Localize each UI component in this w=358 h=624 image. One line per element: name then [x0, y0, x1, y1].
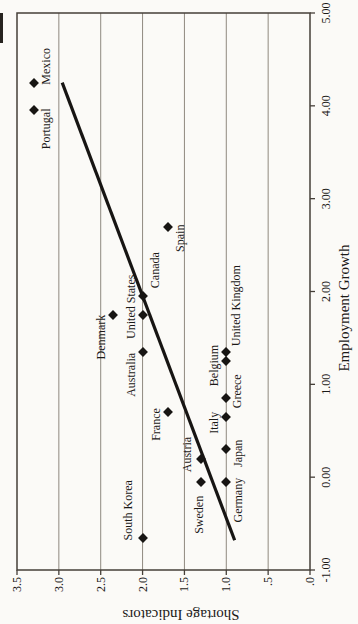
x-tick-label-2-00: 2.00: [319, 281, 334, 302]
x-axis-title: Employment Growth: [336, 244, 353, 371]
y-tick-label-2-5: 2.5: [93, 577, 108, 592]
data-label-portugal: Portugal: [39, 108, 52, 149]
data-label-japan: Japan: [232, 440, 245, 467]
y-tick-label-1-5: 1.5: [177, 577, 192, 592]
y-tick-label-3-0: 3.0: [51, 577, 66, 592]
chart-grid-and-trendline: [0, 0, 358, 624]
y-axis-title: Shortage Indicators: [122, 606, 239, 623]
x-tick-label-5-00: 5.00: [319, 3, 334, 24]
scanned-chart-page: Employment Growth Shortage Indicators -1…: [0, 0, 358, 624]
data-label-germany: Germany: [232, 478, 245, 523]
y-tick-label-1-0: 1.0: [219, 577, 234, 592]
data-label-united-states: United States: [124, 275, 137, 339]
trendline: [62, 83, 234, 541]
data-label-belgium: Belgium: [208, 345, 221, 386]
data-label-canada: Canada: [148, 252, 161, 288]
data-label-united-kingdom: United Kingdom: [230, 265, 243, 346]
rotated-chart-container: Employment Growth Shortage Indicators -1…: [0, 0, 358, 624]
data-label-denmark: Denmark: [95, 315, 108, 360]
x-tick-label--1-00: -1.00: [319, 558, 334, 583]
data-label-australia: Australia: [124, 353, 137, 397]
x-tick-label-1-00: 1.00: [319, 374, 334, 395]
data-label-austria: Austria: [181, 437, 194, 472]
data-label-mexico: Mexico: [39, 48, 52, 85]
plot-border: [17, 13, 310, 570]
x-tick-label-4-00: 4.00: [319, 95, 334, 116]
data-label-sweden: Sweden: [193, 496, 206, 534]
data-label-spain: Spain: [173, 225, 186, 252]
y-tick-label--0: .0: [303, 577, 318, 586]
x-tick-label-3-00: 3.00: [319, 188, 334, 209]
data-label-italy: Italy: [208, 412, 221, 434]
data-label-south-korea: South Korea: [121, 480, 134, 540]
y-tick-label--5: .5: [261, 577, 276, 586]
x-tick-label-0-00: 0.00: [319, 467, 334, 488]
data-label-greece: Greece: [231, 374, 244, 408]
data-label-france: France: [149, 408, 162, 441]
scatter-chart: Employment Growth Shortage Indicators -1…: [0, 0, 358, 624]
y-tick-label-3-5: 3.5: [10, 577, 25, 592]
y-tick-label-2-0: 2.0: [135, 577, 150, 592]
